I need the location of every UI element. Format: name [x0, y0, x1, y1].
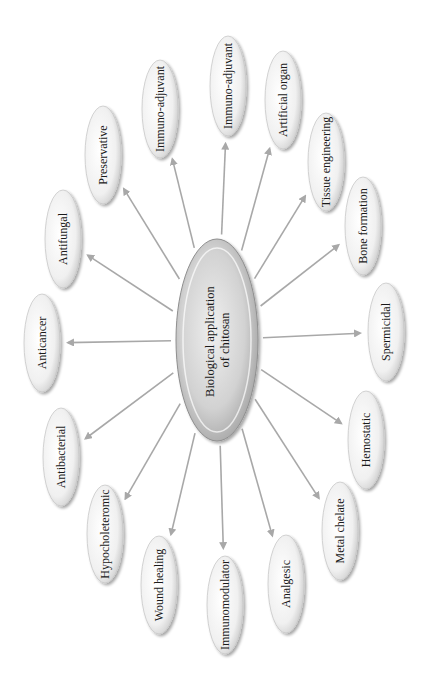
node-analgesic: Analgesic [268, 535, 304, 633]
node-tissue-engineering: Tissue engineering [308, 113, 344, 211]
node-label: Anticancer [35, 317, 49, 370]
node-label: Tissue engineering [319, 117, 333, 208]
node-label: Preservative [96, 125, 110, 184]
arrow-10 [125, 404, 180, 499]
node-label: Immunomodulator [218, 560, 232, 650]
arrow-13 [88, 255, 173, 311]
node-label: Antifungal [56, 212, 70, 265]
node-immuno-adjuvant: Immuno-adjuvant [210, 36, 246, 136]
arrow-3 [261, 245, 339, 306]
arrow-6 [255, 399, 319, 498]
arrow-9 [171, 433, 195, 534]
node-preservative: Preservative [85, 106, 121, 204]
center-ellipse-outer [176, 239, 258, 441]
node-immunomodulator: Immunomodulator [207, 556, 243, 654]
arrow-2 [255, 196, 306, 279]
node-metal-chelate: Metal chelate [322, 482, 358, 580]
node-label: Analgesic [279, 560, 293, 608]
arrow-7 [242, 429, 272, 536]
node-label: Bone formation [356, 188, 370, 264]
center-label-line2: of chitosan [218, 312, 232, 368]
node-immuno-adjuvant: Immuno-adjuvant [142, 60, 178, 158]
node-label: Antibacterial [54, 425, 68, 488]
arrow-11 [86, 373, 174, 439]
arrow-8 [220, 446, 223, 548]
node-label: Artificial organ [276, 63, 290, 137]
node-antibacterial: Antibacterial [43, 408, 79, 506]
node-label: Metal chelate [333, 499, 347, 564]
node-label: Immuno-adjuvant [153, 65, 167, 152]
node-label: Hypocholeteromic [98, 489, 112, 578]
node-bone-formation: Bone formation [345, 177, 381, 275]
node-label: Wound healing [152, 549, 166, 622]
chitosan-applications-diagram: Immuno-adjuvantArtificial organTissue en… [0, 0, 422, 685]
center-label-line1: Biological application [203, 285, 217, 396]
arrow-0 [222, 144, 226, 235]
node-anticancer: Anticancer [24, 294, 60, 392]
center-node: Biological application of chitosan [176, 239, 258, 441]
node-label: Spermicidal [379, 302, 393, 361]
node-spermicidal: Spermicidal [368, 283, 404, 381]
arrow-14 [124, 189, 179, 279]
node-antifungal: Antifungal [45, 190, 81, 288]
node-hypocholeteromic: Hypocholeteromic [87, 485, 123, 583]
node-hemostatic: Hemostatic [348, 391, 384, 489]
arrow-1 [242, 149, 270, 251]
arrow-15 [172, 159, 194, 248]
arrow-12 [68, 341, 171, 343]
arrow-4 [263, 333, 360, 338]
node-label: Hemostatic [359, 413, 373, 468]
node-artificial-organ: Artificial organ [265, 51, 301, 149]
node-wound-healing: Wound healing [141, 536, 177, 634]
node-label: Immuno-adjuvant [221, 42, 235, 129]
arrow-5 [261, 370, 341, 424]
